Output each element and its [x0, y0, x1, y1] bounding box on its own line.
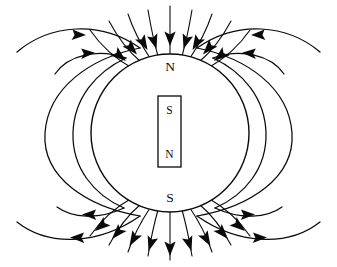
radial-arrowhead-n-r1 [183, 33, 193, 49]
radial-line-n-l1 [148, 10, 158, 56]
radial-line-n-r1 [182, 10, 192, 56]
radial-arrowhead-n-l2 [135, 34, 148, 50]
radial-arrowhead-s-l1 [148, 235, 158, 251]
radial-arrowhead-n-l1 [147, 33, 157, 49]
magnetic-field-diagram: N S S N [0, 0, 337, 267]
radial-arrowhead-s-l4 [95, 217, 111, 231]
planet-south-pole-label: S [166, 190, 174, 205]
radial-arrowhead-n-r2 [193, 34, 206, 50]
radial-line-n-l2 [128, 14, 150, 58]
field-diagram-svg: N S S N [0, 0, 337, 267]
magnet-top-pole-label: S [166, 104, 172, 116]
radial-line-n-l4 [90, 30, 132, 68]
arrowhead-outer-left-upper [72, 30, 86, 40]
magnet-bottom-pole-label: N [165, 148, 174, 160]
arrowhead-outer-right-lower [253, 233, 267, 244]
arrowhead-outer-left-lower [70, 233, 84, 244]
radial-arrowhead-s-r1 [182, 235, 192, 251]
radial-line-s-r2 [190, 208, 212, 252]
arrowhead-outer-right-upper [251, 30, 265, 40]
radial-line-n-r2 [190, 14, 212, 58]
planet-north-pole-label: N [165, 59, 175, 74]
arrowhead-inner-left-lower [82, 210, 96, 221]
arrowhead-inner-right-lower [241, 210, 255, 221]
radial-line-n-r4 [208, 30, 250, 68]
